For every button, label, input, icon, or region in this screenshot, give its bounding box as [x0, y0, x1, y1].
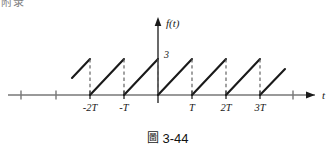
ramp-segment-partial-left — [72, 59, 90, 78]
x-axis-label: t — [322, 89, 326, 101]
figure-page: 附录 — [0, 0, 336, 151]
tick-label-neg2T: -2T — [83, 102, 99, 113]
tick-label-negT: -T — [119, 102, 129, 113]
ramp-segment-2T — [226, 59, 260, 95]
ramp-segment-neg2T — [90, 59, 124, 95]
ramp-segment-zero — [158, 59, 192, 95]
tick-label-2T: 2T — [220, 102, 232, 113]
amplitude-label: 3 — [163, 49, 169, 60]
tick-label-T: T — [189, 102, 196, 113]
y-axis-label: f(t) — [166, 17, 180, 30]
ramp-segment-partial-right — [260, 69, 285, 95]
x-axis-arrow-icon — [306, 92, 315, 99]
figure-caption-number: 3-44 — [162, 132, 188, 145]
tick-label-3T: 3T — [253, 102, 266, 113]
ramp-segment-T — [192, 59, 226, 95]
figure-caption-glyph: 圖 — [147, 132, 159, 144]
sawtooth-ramps — [72, 59, 285, 95]
ramp-segment-negT — [124, 59, 158, 95]
y-axis-arrow-icon — [155, 17, 162, 26]
figure-caption: 圖3-44 — [0, 128, 336, 146]
